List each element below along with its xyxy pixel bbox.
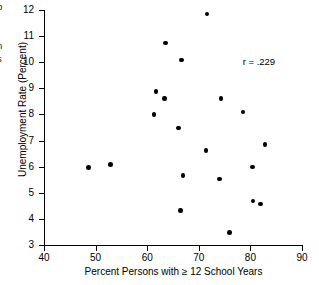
x-tick-mark — [44, 246, 45, 251]
caption-fragment-2: n — [0, 39, 14, 52]
data-point — [263, 142, 268, 147]
data-point — [108, 162, 113, 167]
x-tick-label: 40 — [32, 253, 56, 263]
x-tick-mark — [302, 246, 303, 251]
x-tick-label: 70 — [187, 253, 211, 263]
y-tick-label: 12 — [18, 5, 34, 15]
x-tick-mark — [96, 246, 97, 251]
data-point — [217, 177, 222, 182]
x-tick-label: 60 — [135, 253, 159, 263]
data-point — [181, 173, 186, 178]
data-point — [154, 89, 159, 94]
correlation-annotation: r = .229 — [243, 56, 275, 67]
clipped-caption-text: p n s — [0, 0, 14, 90]
y-axis-label: Unemployment Rate (Percent) — [17, 30, 28, 190]
data-point — [162, 96, 167, 101]
caption-fragment-3: s — [0, 52, 14, 65]
x-axis-line — [44, 245, 303, 246]
x-tick-mark — [250, 246, 251, 251]
y-tick-label: 3 — [18, 240, 34, 250]
caption-fragment-1: p — [0, 0, 14, 13]
x-tick-label: 50 — [84, 253, 108, 263]
scatter-plot-figure: p n s 3456789101112 405060708090 Unemplo… — [0, 0, 319, 285]
x-tick-label: 80 — [238, 253, 262, 263]
data-point — [178, 208, 183, 213]
data-point — [86, 165, 91, 170]
data-point — [227, 230, 232, 235]
x-tick-mark — [147, 246, 148, 251]
data-point — [152, 112, 157, 117]
y-tick-label: 4 — [18, 214, 34, 224]
plot-data-area — [44, 10, 302, 245]
x-tick-mark — [199, 246, 200, 251]
x-tick-label: 90 — [290, 253, 314, 263]
x-axis-label: Percent Persons with ≥ 12 School Years — [44, 266, 303, 277]
